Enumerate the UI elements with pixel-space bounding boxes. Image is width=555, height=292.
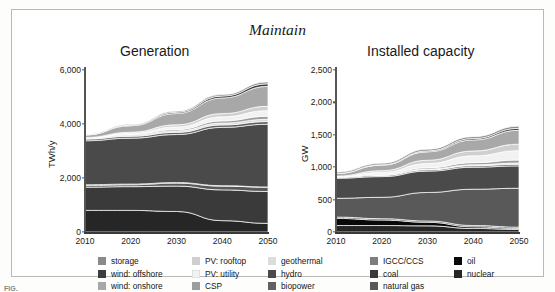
legend-swatch-icon: [192, 257, 200, 265]
legend-swatch-icon: [192, 270, 200, 278]
x-tick-label: 2050: [510, 236, 529, 246]
legend-swatch-icon: [98, 270, 106, 278]
legend-item-coal[interactable]: coal: [370, 267, 424, 279]
generation-area-stack: [85, 70, 268, 232]
x-tick-label: 2010: [76, 236, 95, 246]
y-tick-mark: [82, 177, 85, 178]
legend-swatch-icon: [454, 257, 462, 265]
legend-label: IGCC/CCS: [383, 256, 424, 266]
legend-item-storage[interactable]: storage: [98, 255, 163, 267]
chart-title-generation: Generation: [120, 43, 189, 59]
legend-label: coal: [383, 269, 398, 279]
legend-swatch-icon: [370, 257, 378, 265]
legend-column-4: oilnuclear: [454, 255, 494, 280]
figure-frame: Maintain Generation Installed capacity T…: [11, 9, 544, 277]
legend-item-natural-gas[interactable]: natural gas: [370, 280, 424, 292]
y-tick-label: 4,000: [60, 119, 81, 129]
figure-page: Maintain Generation Installed capacity T…: [0, 0, 555, 292]
y-tick-label: 2,000: [60, 173, 81, 183]
legend-item-biopower[interactable]: biopower: [268, 280, 323, 292]
y-tick-label: 2,500: [311, 65, 332, 75]
y-tick-label: 500: [318, 195, 332, 205]
y-tick-label: 6,000: [60, 65, 81, 75]
chart-plot-generation: 02,0004,0006,00020102020203020402050: [85, 70, 268, 232]
y-tick-mark: [333, 231, 336, 232]
legend-label: hydro: [281, 269, 302, 279]
legend-column-1: PV: rooftopPV: utilityCSP: [192, 255, 246, 292]
legend-swatch-icon: [454, 270, 462, 278]
y-tick-mark: [333, 167, 336, 168]
figure-supertitle: Maintain: [12, 21, 543, 39]
legend-label: geothermal: [281, 256, 323, 266]
legend-swatch-icon: [370, 282, 378, 290]
legend-swatch-icon: [192, 282, 200, 290]
legend-label: biopower: [281, 281, 315, 291]
y-tick-label: 1,000: [311, 162, 332, 172]
y-tick-mark: [333, 134, 336, 135]
x-tick-label: 2050: [259, 236, 278, 246]
x-tick-label: 2040: [213, 236, 232, 246]
chart-plot-installed-capacity: 05001,0001,5002,0002,5002010202020302040…: [336, 70, 519, 232]
legend-item-wind-offshore[interactable]: wind: offshore: [98, 267, 163, 279]
legend-label: oil: [467, 256, 475, 266]
figure-caption: FIG.: [4, 285, 18, 292]
legend-item-oil[interactable]: oil: [454, 255, 494, 267]
capacity-area-stack: [336, 70, 519, 232]
y-tick-mark: [82, 123, 85, 124]
y-tick-mark: [333, 69, 336, 70]
legend-item-pv-utility[interactable]: PV: utility: [192, 267, 246, 279]
y-axis-label-capacity: GW: [299, 146, 310, 162]
legend-swatch-icon: [98, 257, 106, 265]
x-tick-label: 2020: [121, 236, 140, 246]
figure-legend: storagewind: offshorewind: onshorePV: ro…: [98, 255, 538, 292]
legend-label: wind: onshore: [111, 281, 163, 291]
legend-label: PV: rooftop: [205, 256, 246, 266]
legend-item-pv-rooftop[interactable]: PV: rooftop: [192, 255, 246, 267]
legend-swatch-icon: [268, 282, 276, 290]
chart-title-installed-capacity: Installed capacity: [367, 43, 474, 59]
y-tick-mark: [82, 231, 85, 232]
legend-item-geothermal[interactable]: geothermal: [268, 255, 323, 267]
y-tick-mark: [333, 102, 336, 103]
y-tick-mark: [82, 69, 85, 70]
x-tick-label: 2030: [167, 236, 186, 246]
capacity-y-axis-line: [335, 67, 337, 232]
capacity-x-axis-line: [335, 232, 520, 234]
legend-item-hydro[interactable]: hydro: [268, 267, 323, 279]
generation-x-axis-line: [84, 232, 269, 234]
legend-item-nuclear[interactable]: nuclear: [454, 267, 494, 279]
legend-column-0: storagewind: offshorewind: onshore: [98, 255, 163, 292]
legend-label: CSP: [205, 281, 222, 291]
legend-label: nuclear: [467, 269, 494, 279]
legend-swatch-icon: [268, 257, 276, 265]
legend-label: natural gas: [383, 281, 424, 291]
legend-column-3: IGCC/CCScoalnatural gas: [370, 255, 424, 292]
y-tick-mark: [333, 199, 336, 200]
legend-label: wind: offshore: [111, 269, 163, 279]
x-tick-label: 2010: [327, 236, 346, 246]
legend-swatch-icon: [268, 270, 276, 278]
x-tick-label: 2030: [418, 236, 437, 246]
generation-y-axis-line: [84, 67, 86, 232]
legend-item-igcc-ccs[interactable]: IGCC/CCS: [370, 255, 424, 267]
x-tick-label: 2020: [372, 236, 391, 246]
legend-swatch-icon: [98, 282, 106, 290]
x-tick-label: 2040: [464, 236, 483, 246]
y-axis-label-generation: TWh/y: [46, 141, 57, 168]
y-tick-label: 2,000: [311, 97, 332, 107]
legend-label: PV: utility: [205, 269, 239, 279]
legend-item-csp[interactable]: CSP: [192, 280, 246, 292]
y-tick-label: 1,500: [311, 130, 332, 140]
legend-column-2: geothermalhydrobiopower: [268, 255, 323, 292]
legend-item-wind-onshore[interactable]: wind: onshore: [98, 280, 163, 292]
legend-label: storage: [111, 256, 139, 266]
cropped-header-text: [395, 0, 550, 8]
legend-swatch-icon: [370, 270, 378, 278]
